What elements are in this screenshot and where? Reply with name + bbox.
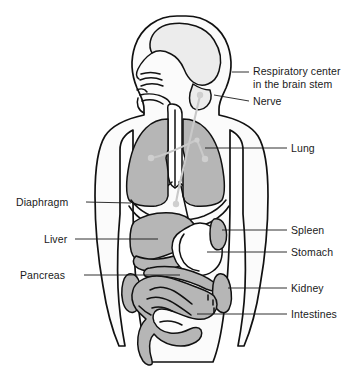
label-lung: Lung — [291, 142, 315, 154]
label-kidney: Kidney — [291, 282, 324, 294]
label-spleen: Spleen — [291, 224, 324, 236]
nerve-branch-dot — [194, 137, 199, 142]
spleen-organ — [210, 219, 227, 250]
label-respiratory-center: Respiratory center in the brain stem — [253, 65, 344, 90]
leader-diaphragm — [86, 202, 131, 203]
nerve-origin-dot — [197, 92, 203, 98]
label-stomach: Stomach — [291, 246, 333, 258]
label-nerve: Nerve — [253, 95, 282, 107]
label-diaphragm: Diaphragm — [16, 196, 68, 208]
label-pancreas: Pancreas — [20, 269, 65, 281]
anatomy-diagram: Respiratory center in the brain stem Ner… — [0, 0, 361, 371]
label-respiratory-center-line1: Respiratory center — [253, 65, 341, 77]
nerve-diaphragm-dot — [173, 201, 179, 207]
label-liver: Liver — [44, 233, 68, 245]
label-respiratory-center-line2: in the brain stem — [253, 78, 332, 90]
label-intestines: Intestines — [291, 308, 337, 320]
nerve-lung-left-dot — [202, 156, 208, 162]
nerve-lung-right-dot — [148, 155, 154, 161]
anatomy-illustration: Respiratory center in the brain stem Ner… — [0, 0, 361, 371]
